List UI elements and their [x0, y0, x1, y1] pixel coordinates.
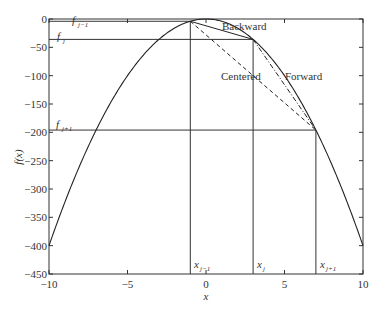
svg-text:f: f: [56, 118, 61, 130]
forward-label: Forward: [285, 70, 323, 82]
f-j-label: f j: [57, 30, 65, 45]
x-jm1-label: x j−1: [193, 258, 210, 273]
y-tick-label: 0: [42, 13, 48, 25]
y-axis-label: f(x): [12, 149, 25, 165]
f-jm1-label: f j−1: [72, 14, 88, 29]
x-tick-label: 5: [282, 278, 288, 290]
y-tick-label: −400: [24, 240, 47, 252]
y-tick-label: −200: [24, 126, 47, 138]
y-tick-label: −350: [24, 211, 47, 223]
svg-text:j+1: j+1: [325, 265, 336, 273]
svg-text:j: j: [62, 37, 65, 45]
svg-text:f: f: [72, 14, 77, 26]
plot-area: −10−505100−50−100−150−200−250−300−350−40…: [24, 13, 369, 290]
finite-difference-chart: −10−505100−50−100−150−200−250−300−350−40…: [0, 0, 392, 315]
svg-text:j: j: [262, 265, 265, 273]
y-tick-label: −250: [24, 155, 47, 167]
y-tick-label: −450: [24, 268, 47, 280]
y-tick-label: −100: [24, 70, 47, 82]
backward-label: Backward: [222, 20, 267, 32]
svg-text:x: x: [256, 258, 262, 270]
y-tick-label: −50: [30, 41, 48, 53]
x-tick-label: 10: [358, 278, 370, 290]
svg-text:j−1: j−1: [77, 21, 88, 29]
y-tick-label: −150: [24, 98, 47, 110]
svg-text:f: f: [57, 30, 62, 42]
x-tick-label: 0: [203, 278, 209, 290]
x-axis-label: x: [203, 290, 209, 302]
f-jp1-label: f j+1: [56, 118, 72, 133]
x-jp1-label: x j+1: [319, 258, 336, 273]
x-tick-label: −5: [122, 278, 134, 290]
y-tick-label: −300: [24, 183, 47, 195]
forward-secant-line: [253, 39, 316, 130]
centered-label: Centered: [221, 70, 261, 82]
svg-text:j−1: j−1: [199, 265, 210, 273]
svg-text:x: x: [193, 258, 199, 270]
svg-text:x: x: [319, 258, 325, 270]
x-j-label: x j: [256, 258, 265, 273]
svg-text:j+1: j+1: [61, 125, 72, 133]
